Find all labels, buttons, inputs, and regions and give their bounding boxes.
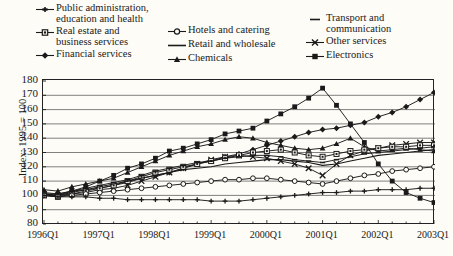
legend-column-1: Public administration, education and hea… <box>36 2 186 62</box>
legend-column-2: Hotels and cateringRetail and wholesale … <box>168 24 308 66</box>
legend-transport-communication[interactable]: Transport and communication <box>306 12 436 34</box>
legend-real-estate[interactable]: Real estate and business services <box>36 25 186 47</box>
chart-legend: Public administration, education and hea… <box>0 0 439 72</box>
x-tick-label: 2003Q1 <box>410 230 453 240</box>
square-filled-marker-icon <box>306 51 326 62</box>
legend-other-services[interactable]: Other services <box>306 35 436 48</box>
plus-marker-icon <box>36 4 56 15</box>
legend-label: Transport and communication <box>326 12 391 34</box>
plot-frame <box>42 79 434 224</box>
y-tick-label: 120 <box>14 160 38 171</box>
x-tick-label: 2001Q1 <box>299 230 345 240</box>
plot-lines <box>43 80 435 225</box>
legend-label: Real estate and business services <box>56 25 128 47</box>
legend-hotels-catering[interactable]: Hotels and catering <box>168 24 308 37</box>
legend-column-3: Transport and communication Other servic… <box>306 12 436 63</box>
x-tick-label: 1999Q1 <box>187 230 233 240</box>
legend-retail-wholesale[interactable]: Retail and wholesale <box>168 38 308 51</box>
triangle-marker-icon <box>168 54 188 65</box>
x-tick-label: 1998Q1 <box>131 230 177 240</box>
x-tick-label: 1996Q1 <box>20 230 66 240</box>
line-marker-icon <box>168 40 188 51</box>
legend-label: Electronics <box>326 49 373 60</box>
x-tick-label: 2000Q1 <box>243 230 289 240</box>
legend-label: Financial services <box>56 48 132 59</box>
legend-label: Public administration, education and hea… <box>56 2 149 24</box>
y-tick-label: 110 <box>14 174 38 185</box>
y-tick-label: 100 <box>14 188 38 199</box>
legend-label: Hotels and catering <box>188 24 270 35</box>
circle-marker-icon <box>168 26 188 37</box>
chart-area: Index: 1995 = 100 1801701601501401301201… <box>0 72 439 256</box>
y-tick-label: 170 <box>14 88 38 99</box>
legend-label: Chemicals <box>188 52 232 63</box>
square-open-marker-icon <box>36 27 56 38</box>
x-tick-label: 2002Q1 <box>354 230 400 240</box>
legend-public-administration[interactable]: Public administration, education and hea… <box>36 2 186 24</box>
dash-marker-icon <box>306 14 326 25</box>
legend-financial-services[interactable]: Financial services <box>36 48 186 61</box>
y-tick-label: 90 <box>14 203 38 214</box>
y-tick-label: 150 <box>14 117 38 128</box>
legend-chemicals[interactable]: Chemicals <box>168 52 308 65</box>
y-tick-label: 130 <box>14 146 38 157</box>
legend-electronics[interactable]: Electronics <box>306 49 436 62</box>
y-tick-label: 80 <box>14 217 38 228</box>
diamond-marker-icon <box>36 50 56 61</box>
x-axis-ticks: 1996Q11997Q11998Q11999Q12000Q12001Q12002… <box>0 230 439 246</box>
y-tick-label: 140 <box>14 131 38 142</box>
legend-label: Retail and wholesale <box>188 38 275 49</box>
cross-marker-icon <box>306 37 326 48</box>
x-tick-label: 1997Q1 <box>76 230 122 240</box>
legend-label: Other services <box>326 35 386 46</box>
y-tick-label: 180 <box>14 74 38 85</box>
y-tick-label: 160 <box>14 103 38 114</box>
